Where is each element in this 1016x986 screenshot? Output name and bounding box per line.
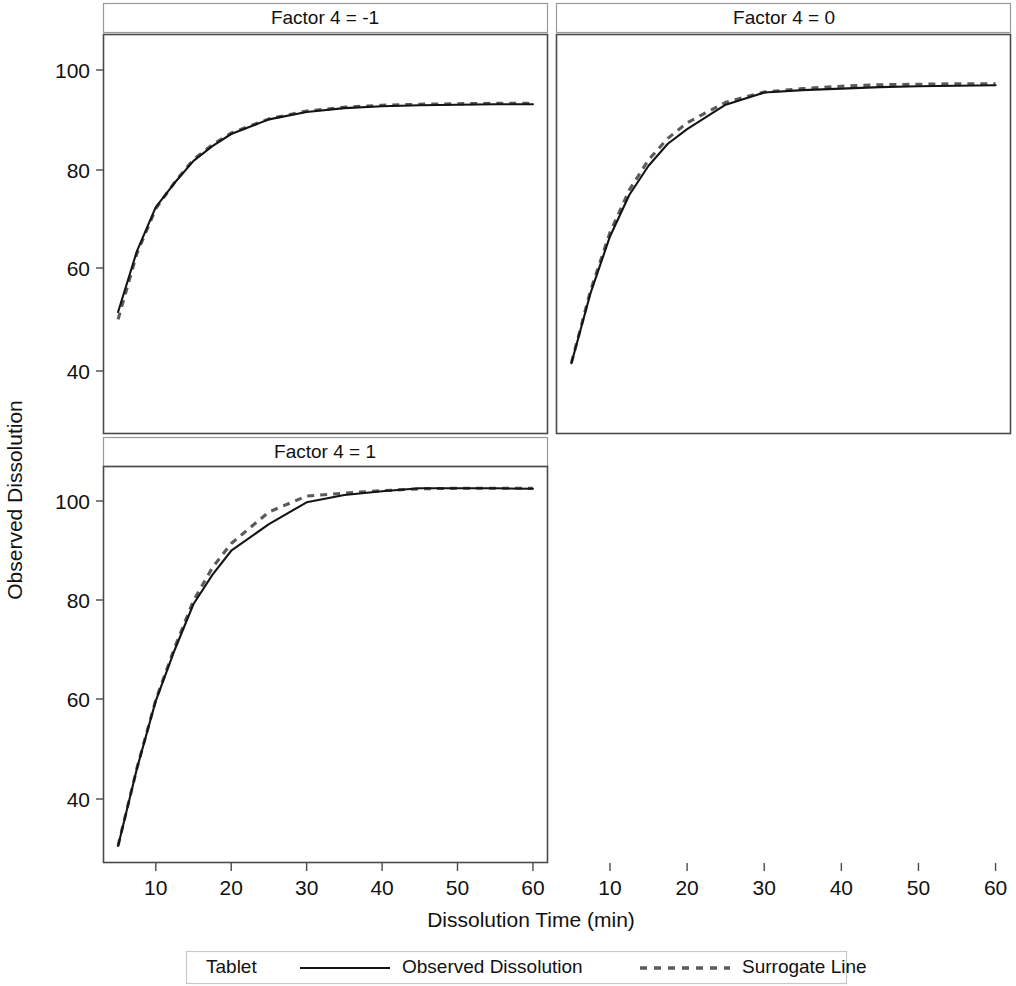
x-axis-tick-labels-right: 102030405060 <box>598 876 1007 899</box>
y-tick-label: 80 <box>67 159 90 182</box>
x-tick-label: 40 <box>370 876 393 899</box>
panel-strip-label-3: Factor 4 = 1 <box>274 441 376 462</box>
panel-factor4-0: Factor 4 = 0 <box>557 4 1011 434</box>
x-tick-label: 10 <box>144 876 167 899</box>
x-tick-label: 50 <box>907 876 930 899</box>
x-axis-ticks-left <box>156 863 533 871</box>
x-tick-label: 10 <box>598 876 621 899</box>
x-tick-label: 20 <box>675 876 698 899</box>
chart-canvas: Observed Dissolution Factor 4 = -1 100 8… <box>0 0 1016 986</box>
panel-strip-label-1: Factor 4 = -1 <box>271 7 379 28</box>
x-tick-label: 50 <box>446 876 469 899</box>
series-surrogate-line-3 <box>118 488 533 845</box>
x-axis-tick-labels-left: 102030405060 <box>144 876 544 899</box>
legend-group-label: Tablet <box>206 956 257 977</box>
series-observed-dissolution-2 <box>571 85 995 363</box>
dissolution-facet-chart: Observed Dissolution Factor 4 = -1 100 8… <box>0 0 1016 986</box>
y-tick-label: 60 <box>67 257 90 280</box>
y-axis-title: Observed Dissolution <box>3 400 26 600</box>
panel-plot-frame-1 <box>104 35 548 434</box>
x-tick-label: 40 <box>830 876 853 899</box>
y-tick-label: 60 <box>67 688 90 711</box>
panel-factor4-neg1: Factor 4 = -1 100 80 60 40 <box>55 4 548 434</box>
series-surrogate-line-2 <box>571 84 995 363</box>
panel-plot-frame-2 <box>557 35 1011 434</box>
x-axis-ticks-right <box>610 863 996 871</box>
y-tick-label: 100 <box>55 59 90 82</box>
x-tick-label: 60 <box>521 876 544 899</box>
series-observed-dissolution-3 <box>118 488 533 846</box>
panel-3-y-ticks <box>96 501 103 799</box>
legend-label-observed-dissolution: Observed Dissolution <box>402 956 583 977</box>
y-tick-label: 40 <box>67 788 90 811</box>
panel-1-y-ticks <box>96 70 103 371</box>
x-tick-label: 30 <box>295 876 318 899</box>
panel-factor4-1: Factor 4 = 1 100 80 60 40 <box>55 438 548 863</box>
legend-label-surrogate-line: Surrogate Line <box>742 956 867 977</box>
chart-legend: Tablet Observed Dissolution Surrogate Li… <box>187 952 867 984</box>
x-tick-label: 60 <box>984 876 1007 899</box>
series-observed-dissolution-1 <box>118 104 533 312</box>
panel-strip-label-2: Factor 4 = 0 <box>733 7 835 28</box>
series-surrogate-line-1 <box>118 103 533 319</box>
panel-1-y-tick-labels: 100 80 60 40 <box>55 59 90 383</box>
y-tick-label: 100 <box>55 490 90 513</box>
x-tick-label: 20 <box>220 876 243 899</box>
y-tick-label: 80 <box>67 589 90 612</box>
x-tick-label: 30 <box>753 876 776 899</box>
y-tick-label: 40 <box>67 360 90 383</box>
x-axis-title: Dissolution Time (min) <box>427 908 635 931</box>
panel-3-y-tick-labels: 100 80 60 40 <box>55 490 90 811</box>
